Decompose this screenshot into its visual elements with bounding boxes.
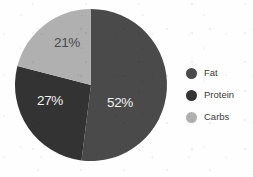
legend-label-fat: Fat xyxy=(204,68,218,78)
legend-item-carbs[interactable]: Carbs xyxy=(186,106,252,128)
legend-label-protein: Protein xyxy=(204,90,234,100)
chart-legend: Fat Protein Carbs xyxy=(186,62,252,128)
legend-label-carbs: Carbs xyxy=(204,112,229,122)
pie-chart-screenshot: 52% 27% 21% Fat Protein Carbs xyxy=(0,0,253,177)
legend-swatch-icon-fat xyxy=(186,68,197,79)
pie-slice-label-protein: 27% xyxy=(37,93,63,108)
pie-slice-label-fat: 52% xyxy=(107,95,133,110)
pie-slice-fat[interactable] xyxy=(81,9,167,161)
pie-slice-label-carbs: 21% xyxy=(54,35,80,50)
pie-chart-svg: 52% 27% 21% xyxy=(0,0,180,177)
legend-item-fat[interactable]: Fat xyxy=(186,62,252,84)
legend-swatch-icon-protein xyxy=(186,90,197,101)
legend-item-protein[interactable]: Protein xyxy=(186,84,252,106)
legend-swatch-icon-carbs xyxy=(186,112,197,123)
pie-chart: 52% 27% 21% xyxy=(0,0,180,177)
pie-slices xyxy=(15,9,167,161)
